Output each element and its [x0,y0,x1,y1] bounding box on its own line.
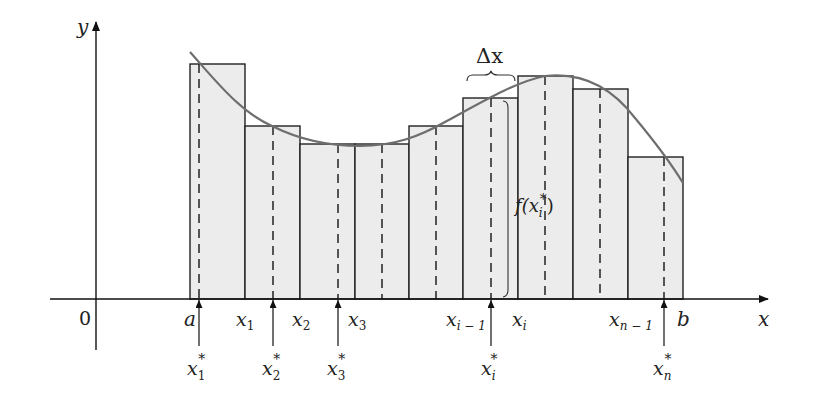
riemann-rectangle [409,126,463,299]
x-axis-label: x [758,307,769,331]
partition-label-a: a [184,307,196,331]
sample-label-2: x2* [262,351,280,383]
origin-label: 0 [79,307,91,329]
partition-label-xi: xi [512,308,527,333]
sample-label-1: x1* [187,351,205,383]
riemann-rectangles [190,64,683,299]
y-axis-label: y [76,15,89,39]
partition-label-xn-minus-1: xn − 1 [609,308,653,333]
sample-label-i: xi* [481,351,498,383]
delta-x-label: Δx [476,44,503,68]
sample-label-n: xn* [653,351,671,383]
partition-label-b: b [677,307,690,331]
partition-label-x3: x3 [348,308,366,333]
delta-x-brace [467,71,515,81]
partition-label-xi-minus-1: xi − 1 [446,308,486,333]
height-label: f(xi*) [513,191,554,220]
partition-label-x1: x1 [236,308,254,333]
riemann-rectangle [245,126,300,299]
riemann-sum-diagram: y x 0 Δx f(xi*) a x1 x2 x3 xi − 1 xi xn … [0,0,813,393]
riemann-rectangle [300,144,355,299]
sample-arrows [199,300,664,346]
partition-label-x2: x2 [292,308,310,333]
riemann-rectangle [628,157,683,299]
svg-text:f(xi*): f(xi*) [513,191,554,220]
partition-labels: a x1 x2 x3 xi − 1 xi xn − 1 b [184,307,690,333]
sample-labels: x1* x2* x3* xi* xn* [187,351,671,383]
sample-label-3: x3* [327,351,345,383]
